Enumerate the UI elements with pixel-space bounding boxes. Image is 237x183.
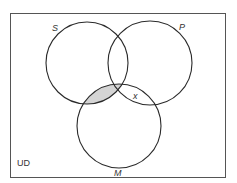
label-s: S — [52, 23, 58, 33]
circle-s — [46, 22, 128, 104]
universe-label: UD — [17, 158, 30, 168]
label-m: M — [114, 168, 122, 178]
universe-frame — [11, 14, 226, 178]
venn-diagram: S P M x UD — [0, 0, 237, 183]
label-p: P — [179, 22, 185, 32]
circle-m — [77, 84, 161, 168]
x-mark: x — [132, 91, 138, 101]
circle-p — [108, 21, 192, 105]
